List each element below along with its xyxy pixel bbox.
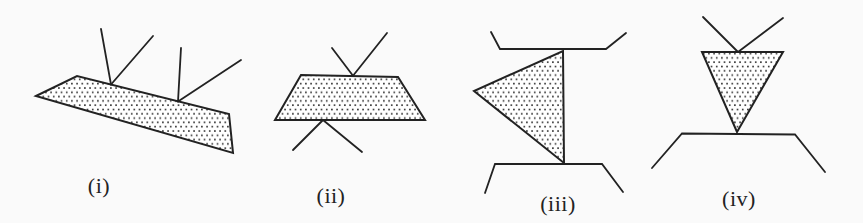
panel-iii-label: (iii) [540, 193, 576, 215]
panel-i-line-2 [111, 36, 153, 85]
panel-ii-line-4 [323, 120, 362, 152]
panel-iv-line-3 [652, 134, 825, 173]
panel-ii-line-1 [332, 48, 353, 76]
panel-i-slanted-quadrilateral-strip [36, 76, 233, 153]
panel-iv-line-2 [738, 18, 783, 52]
panel-iv-label: (iv) [722, 188, 756, 210]
panel-i-line-3 [178, 48, 181, 102]
panel-ii-line-2 [353, 33, 387, 76]
panel-i-line-1 [101, 29, 111, 85]
panel-i-line-4 [178, 60, 241, 102]
panel-i-label: (i) [88, 175, 110, 197]
panel-iii-line-1 [491, 32, 626, 49]
panel-iii-left-pointing-triangle [474, 51, 564, 163]
panels-group [36, 17, 825, 193]
panel-ii-label: (ii) [317, 185, 346, 207]
panel-iv-down-pointing-triangle [702, 52, 783, 132]
panel-ii-trapezoid [275, 75, 425, 120]
panel-iv-line-1 [703, 17, 738, 52]
panel-iv [652, 17, 825, 172]
panel-iii-line-2 [485, 164, 623, 193]
panel-ii [275, 33, 425, 152]
panel-iii [474, 32, 626, 193]
panel-i [36, 29, 241, 153]
panel-ii-line-3 [293, 120, 323, 150]
figure-page: (i) (ii) (iii) (iv) [0, 0, 863, 223]
